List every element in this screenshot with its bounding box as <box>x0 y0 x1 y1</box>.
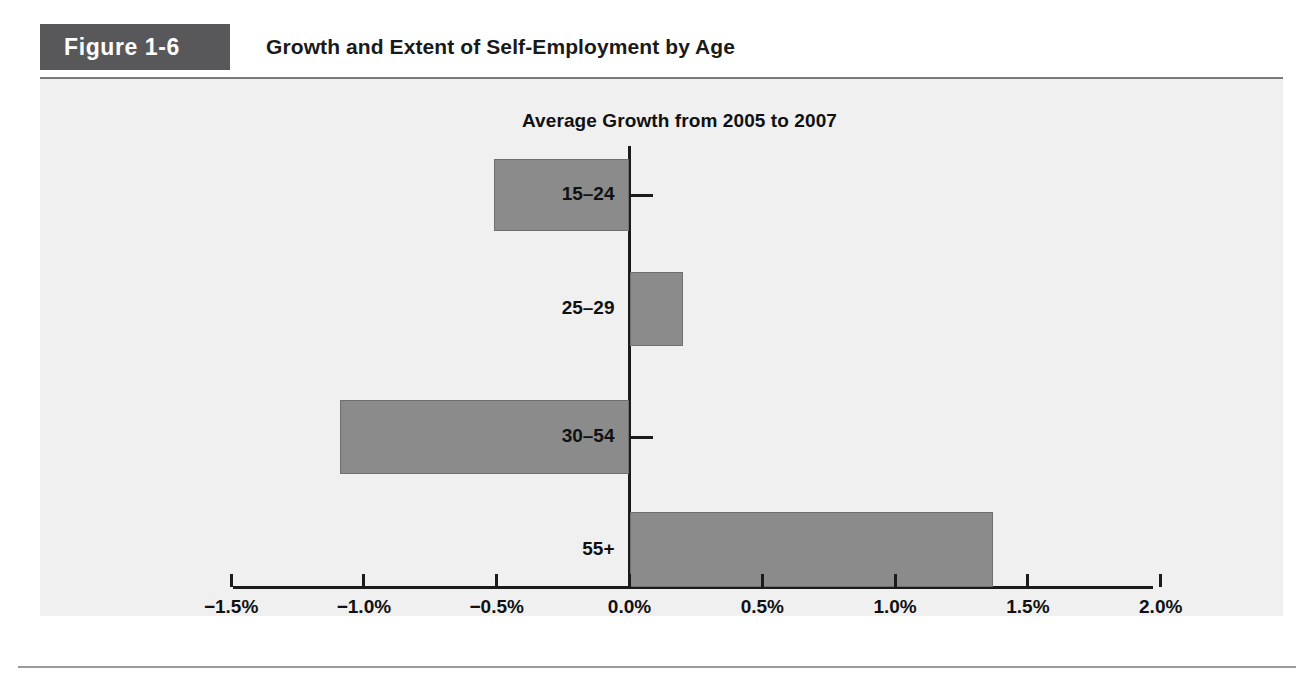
figure-number-label: Figure 1-6 <box>64 34 180 61</box>
figure-header: Figure 1-6 Growth and Extent of Self-Emp… <box>40 24 1283 70</box>
chart-subtitle: Average Growth from 2005 to 2007 <box>0 110 1313 132</box>
figure-title: Growth and Extent of Self-Employment by … <box>266 35 735 59</box>
figure-container: Figure 1-6 Growth and Extent of Self-Emp… <box>0 0 1313 680</box>
figure-title-wrap: Growth and Extent of Self-Employment by … <box>230 24 1283 70</box>
figure-bottom-rule <box>18 666 1296 668</box>
figure-tag-block: Figure 1-6 <box>40 24 230 70</box>
plot-panel <box>40 79 1283 616</box>
